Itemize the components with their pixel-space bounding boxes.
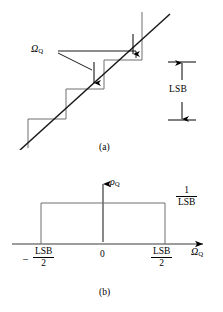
positive-half-lsb-fraction: LSB 2 — [151, 247, 172, 268]
pdf-axis-label: ρQ — [110, 177, 120, 188]
pdf-height-denominator: LSB — [176, 198, 197, 208]
omega-axis-label: ΩQ — [191, 247, 203, 258]
figure-container: ΩQ LSB (a) ρQ ΩQ 1 LSB — [0, 0, 223, 312]
omega-subscript: Q — [38, 47, 43, 54]
negative-half-lsb-numerator: LSB — [33, 247, 54, 257]
omega-axis-subscript: Q — [198, 250, 203, 257]
panel-a-graphic — [0, 0, 223, 150]
pdf-height-fraction: 1 LSB — [176, 186, 197, 207]
negative-half-lsb-denominator: 2 — [33, 259, 54, 269]
positive-half-lsb-numerator: LSB — [151, 247, 172, 257]
quantization-error-label: ΩQ — [31, 44, 43, 55]
pdf-height-numerator: 1 — [176, 186, 197, 196]
panel-a-caption: (a) — [99, 143, 110, 153]
ideal-transfer-line — [20, 14, 170, 150]
rho-subscript: Q — [115, 180, 120, 187]
negative-tick-minus-sign: – — [23, 253, 28, 264]
lsb-step-label: LSB — [169, 85, 187, 95]
origin-label: 0 — [100, 250, 105, 260]
positive-half-lsb-denominator: 2 — [151, 259, 172, 269]
panel-b-caption: (b) — [99, 288, 110, 298]
negative-half-lsb-fraction: LSB 2 — [33, 247, 54, 268]
